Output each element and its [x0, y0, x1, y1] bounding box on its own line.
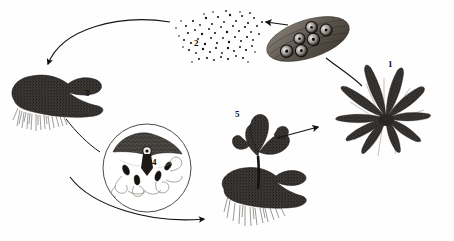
fern-life-cycle-diagram: 1 2 3 4 5	[0, 0, 454, 241]
gametophyte-prothallus	[12, 75, 103, 131]
label-spores: 2	[194, 39, 199, 48]
diagram-canvas	[0, 0, 454, 241]
spore-cloud	[175, 10, 263, 63]
arrow-gametophyte-to-inset	[66, 119, 100, 152]
fertilization-circle-inset	[103, 124, 191, 212]
label-young-sporophyte: 5	[235, 110, 240, 119]
mature-fern-sporophyte	[336, 63, 431, 156]
young-sporophyte-plant	[222, 114, 306, 226]
arrow-fern-to-sorus	[326, 58, 362, 86]
sorus-pinnule	[261, 8, 355, 71]
arrow-spores-to-gametophyte	[48, 20, 170, 64]
label-gametophyte: 3	[85, 89, 90, 98]
label-fertilization-inset: 4	[152, 158, 157, 167]
arrow-sorus-to-spores	[266, 22, 288, 25]
label-mature-sporophyte: 1	[388, 60, 393, 69]
